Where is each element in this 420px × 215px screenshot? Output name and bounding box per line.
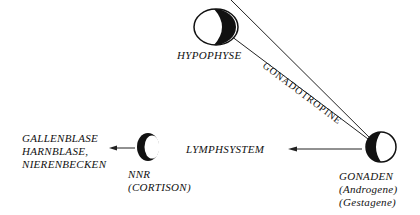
gonaden-sub-1: (Androgene) xyxy=(339,183,397,196)
hypophyse-icon xyxy=(194,9,238,45)
target-line-3: NIERENBECKEN xyxy=(22,158,106,171)
gonaden-icon xyxy=(366,132,396,162)
target-line-2: HARNBLASE, xyxy=(22,145,106,158)
nnr-sub-label: (CORTISON) xyxy=(128,181,191,194)
gonaden-sub-2: (Gestagene) xyxy=(339,196,397,209)
gonadotropine-connector xyxy=(231,0,380,148)
nnr-icon xyxy=(137,133,160,161)
gonaden-label: GONADEN xyxy=(339,170,397,183)
target-organs-label: GALLENBLASE HARNBLASE, NIERENBECKEN xyxy=(22,132,106,171)
gonadotropine-label: GONADOTROPINE xyxy=(261,60,344,127)
nnr-label: NNR xyxy=(128,168,191,181)
target-line-1: GALLENBLASE xyxy=(22,132,106,145)
gonaden-label-block: GONADEN (Androgene) (Gestagene) xyxy=(339,170,397,209)
lymphsystem-label: LYMPHSYSTEM xyxy=(186,143,264,156)
hypophyse-label: HYPOPHYSE xyxy=(177,49,241,62)
nnr-label-block: NNR (CORTISON) xyxy=(128,168,191,194)
